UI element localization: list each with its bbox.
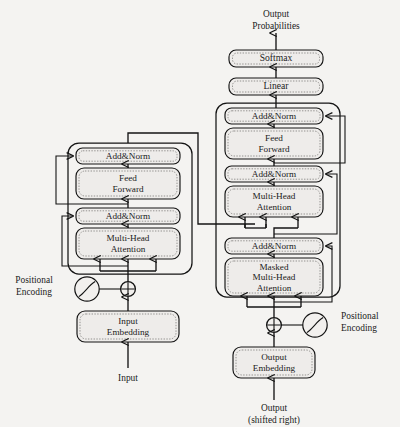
diagram-page: Output Probabilities Softmax Linear (0, 0, 400, 427)
encoder-positional-encoding-label-line1: Positional (15, 275, 53, 285)
encoder-add-norm-2-box: Add&Norm (76, 148, 180, 164)
encoder-add-norm-2-label: Add&Norm (106, 151, 150, 161)
encoder-feed-forward-label-line1: Feed (119, 173, 137, 183)
decoder-positional-encoding-icon (303, 313, 327, 337)
decoder-feed-forward-box: Feed Forward (225, 128, 323, 159)
decoder-mha-label-line2: Attention (257, 202, 292, 212)
decoder-sum-node (267, 318, 282, 333)
decoder-add-norm-1-label: Add&Norm (252, 241, 296, 251)
encoder-feed-forward-label-line2: Forward (112, 184, 144, 194)
encoder-mha-label-line2: Attention (111, 244, 146, 254)
decoder-embedding-label-line2: Embedding (253, 363, 296, 373)
encoder-mha-label-line1: Multi-Head (107, 233, 150, 243)
decoder-positional-encoding-label-line1: Positional (341, 311, 379, 321)
output-probabilities-label-line1: Output (263, 9, 289, 19)
output-head-group: Output Probabilities Softmax Linear (229, 9, 323, 110)
encoder-add-norm-1-box: Add&Norm (76, 208, 180, 224)
output-probabilities-label-line2: Probabilities (252, 21, 300, 31)
encoder-embedding-label-line1: Input (118, 316, 138, 326)
decoder-add-norm-1-box: Add&Norm (225, 238, 323, 254)
decoder-add-norm-3-label: Add&Norm (252, 111, 296, 121)
encoder-multi-head-attention-box: Multi-Head Attention (76, 228, 180, 259)
wire-decoder-cross-q-bus (274, 228, 298, 238)
decoder-feed-forward-label-line2: Forward (258, 144, 290, 154)
softmax-label: Softmax (260, 52, 293, 63)
decoder-multi-head-attention-box: Multi-Head Attention (225, 186, 323, 217)
encoder-input-embedding-box: Input Embedding (77, 311, 179, 342)
decoder-mha-label-line1: Multi-Head (253, 191, 296, 201)
encoder-embedding-label-line2: Embedding (107, 327, 150, 337)
encoder-add-norm-1-label: Add&Norm (106, 211, 150, 221)
encoder-input-path: Positional Encoding Input Embedding Inpu… (15, 271, 179, 383)
decoder-add-norm-2-box: Add&Norm (225, 166, 323, 182)
decoder-masked-mha-label-line3: Attention (257, 283, 292, 293)
encoder-stack: Add&Norm Feed Forward Add&Norm M (56, 143, 192, 274)
decoder-masked-mha-label-line2: Multi-Head (253, 272, 296, 282)
encoder-feed-forward-box: Feed Forward (76, 168, 180, 199)
linear-label: Linear (263, 80, 289, 91)
softmax-box: Softmax (229, 50, 323, 67)
decoder-output-embedding-box: Output Embedding (233, 347, 315, 378)
encoder-positional-encoding-label-line2: Encoding (16, 287, 52, 297)
decoder-add-norm-3-box: Add&Norm (225, 108, 323, 124)
linear-box: Linear (229, 78, 323, 95)
decoder-input-label-line2: (shifted right) (248, 415, 300, 426)
encoder-sum-node (121, 282, 136, 297)
decoder-stack: Add&Norm Feed Forward Add&Norm M (216, 103, 345, 307)
decoder-feed-forward-label-line1: Feed (265, 133, 283, 143)
decoder-masked-mha-box: Masked Multi-Head Attention (225, 258, 323, 296)
decoder-input-path: Positional Encoding Output Embedding Out… (233, 307, 379, 426)
decoder-positional-encoding-label-line2: Encoding (341, 323, 377, 333)
decoder-add-norm-2-label: Add&Norm (252, 169, 296, 179)
encoder-positional-encoding-icon (75, 277, 99, 301)
decoder-embedding-label-line1: Output (261, 352, 287, 362)
decoder-masked-mha-label-line1: Masked (259, 262, 288, 272)
transformer-architecture-diagram: Output Probabilities Softmax Linear (0, 0, 400, 427)
encoder-input-label: Input (118, 373, 138, 383)
decoder-input-label-line1: Output (261, 403, 287, 413)
